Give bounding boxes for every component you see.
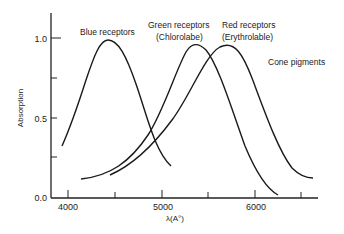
green-receptors-label: Green receptors [148, 20, 209, 30]
x-tick-label-4000: 4000 [58, 202, 78, 212]
green-receptors-sublabel: (Chlorolabe) [156, 32, 203, 42]
blue-receptor-curve [62, 40, 171, 166]
x-axis-title: λ(A°) [166, 214, 184, 223]
cone-pigments-label: Cone pigments [268, 57, 325, 67]
red-receptors-sublabel: (Erythrolable) [222, 32, 273, 42]
y-tick-label-0.5: 0.5 [34, 114, 47, 124]
x-ticks [68, 190, 301, 198]
red-receptors-label: Red receptors [222, 20, 275, 30]
y-tick-label-0.0: 0.0 [34, 193, 47, 203]
absorption-chart: 1.0 0.5 0.0 4000 5000 6000 λ(A°) Absorpt… [0, 0, 344, 234]
green-receptor-curve [81, 45, 278, 195]
y-tick-label-1.0: 1.0 [34, 34, 47, 44]
y-ticks [51, 38, 61, 157]
x-tick-label-5000: 5000 [153, 202, 173, 212]
x-tick-label-6000: 6000 [246, 202, 266, 212]
blue-receptors-label: Blue receptors [80, 27, 135, 37]
y-axis-title: Absorption [16, 89, 25, 127]
